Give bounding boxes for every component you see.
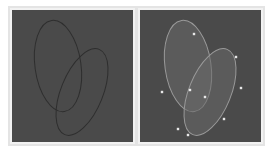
selected-ellipses-diagram xyxy=(140,10,261,142)
right-panel-frame xyxy=(136,6,265,146)
right-canvas xyxy=(140,10,261,142)
ellipse-shape-2[interactable] xyxy=(45,41,118,142)
control-point-handle[interactable] xyxy=(177,128,179,130)
control-point-handle[interactable] xyxy=(204,96,206,98)
control-point-handle[interactable] xyxy=(187,134,189,136)
control-point-handle[interactable] xyxy=(161,91,163,93)
control-point-handle[interactable] xyxy=(193,33,195,35)
ellipse-outlines-diagram xyxy=(12,10,133,142)
control-point-handle[interactable] xyxy=(235,56,237,58)
control-point-handle[interactable] xyxy=(189,89,191,91)
left-canvas xyxy=(12,10,133,142)
control-point-handle[interactable] xyxy=(223,118,225,120)
control-point-handle[interactable] xyxy=(240,87,242,89)
left-panel-frame xyxy=(8,6,137,146)
